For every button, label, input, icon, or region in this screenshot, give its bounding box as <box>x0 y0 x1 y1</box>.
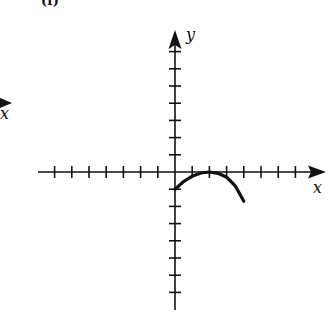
coordinate-plane <box>0 0 330 329</box>
y-axis-label: y <box>186 27 195 43</box>
neighbor-x-label: x <box>0 106 9 122</box>
x-axis-label: x <box>313 180 322 196</box>
